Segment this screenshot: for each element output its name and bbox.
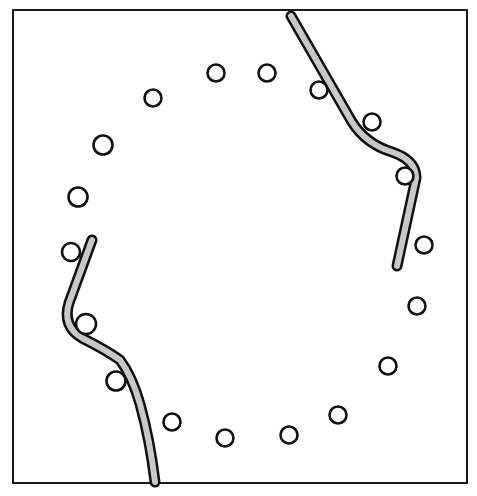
ring-circle [409, 298, 426, 315]
ring-circle [281, 427, 298, 444]
ring-circle [107, 372, 126, 391]
circle-ring [62, 65, 433, 447]
ring-circle [208, 65, 225, 82]
ring-circle [416, 237, 433, 254]
ring-circle [217, 430, 234, 447]
band-lower-left [67, 240, 155, 482]
ring-circle [94, 136, 113, 155]
ring-circle [69, 188, 88, 207]
ring-circle [397, 168, 414, 185]
diagram-canvas [0, 0, 477, 496]
ring-circle [164, 414, 181, 431]
band-upper-right [291, 16, 416, 266]
ring-circle [145, 90, 162, 107]
ring-circle [311, 82, 328, 99]
ring-circle [62, 243, 80, 261]
ring-circle [364, 114, 381, 131]
ring-circle [259, 65, 276, 82]
ring-circle [76, 314, 96, 334]
ring-circle [380, 358, 397, 375]
ring-circle [330, 407, 347, 424]
